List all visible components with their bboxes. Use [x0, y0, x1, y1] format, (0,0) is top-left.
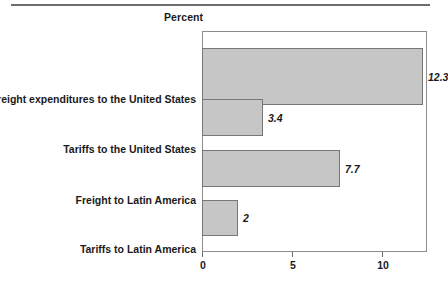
x-tick-label-2: 10 — [377, 259, 389, 271]
bar-0[interactable] — [202, 48, 423, 105]
bar-value-label-3: 2 — [243, 212, 249, 224]
bars-group: 12.3 3.4 7.7 2 — [202, 31, 427, 252]
category-label-3: Tariffs to Latin America — [80, 243, 196, 255]
category-label-2: Freight to Latin America — [76, 194, 196, 206]
category-labels-group: Freight expenditures to the United State… — [0, 31, 196, 252]
bar-value-label-1: 3.4 — [268, 112, 283, 124]
bar-value-label-0: 12.3 — [428, 71, 448, 83]
x-tick-label-0: 0 — [200, 259, 206, 271]
category-label-1: Tariffs to the United States — [63, 143, 196, 155]
x-tick-mark-0 — [202, 252, 203, 257]
bar-value-label-2: 7.7 — [345, 163, 360, 175]
x-tick-label-1: 5 — [290, 259, 296, 271]
bar-3[interactable] — [202, 200, 238, 236]
x-axis-title: Percent — [164, 11, 203, 23]
x-tick-mark-1 — [292, 252, 293, 257]
bar-2[interactable] — [202, 150, 340, 187]
category-label-0: Freight expenditures to the United State… — [0, 93, 196, 105]
x-axis: 0 5 10 — [202, 252, 427, 286]
x-tick-mark-2 — [382, 252, 383, 257]
bar-1[interactable] — [202, 99, 263, 136]
top-divider-rule — [11, 4, 430, 6]
